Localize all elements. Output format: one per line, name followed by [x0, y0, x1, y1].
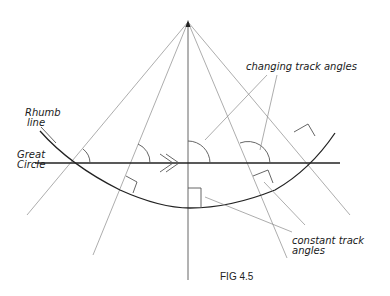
constant-track-angles-line2: angles	[292, 246, 364, 256]
changing-angle-arcs	[83, 141, 270, 163]
figure-caption: FIG 4.5	[220, 271, 253, 282]
rhumb-line-curve	[40, 131, 335, 208]
leader-lines	[41, 75, 305, 232]
rhumb-line-label-line2: line	[25, 118, 61, 128]
constant-track-angles-label: constant track angles	[292, 236, 364, 256]
great-circle-label: Great Circle	[17, 150, 45, 170]
north-arrow-icon	[186, 20, 191, 27]
constant-angle-markers	[126, 124, 315, 208]
great-circle-label-line2: Circle	[17, 160, 45, 170]
rhumb-line-label: Rhumb line	[25, 108, 61, 128]
changing-track-angles-label: changing track angles	[246, 62, 357, 72]
